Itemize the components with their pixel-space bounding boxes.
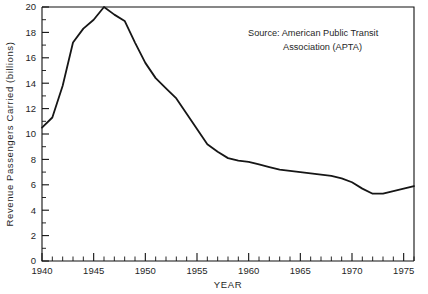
x-tick-label-1955: 1955 <box>186 265 207 276</box>
y-tick-label-6: 6 <box>31 179 36 190</box>
line-chart: 02468101214161820 1940194519501955196019… <box>0 0 428 294</box>
source-note-line-1: Source: American Public Transit <box>248 28 379 38</box>
x-tick-label-1960: 1960 <box>238 265 259 276</box>
x-tick-label-1940: 1940 <box>31 265 52 276</box>
chart-figure: 02468101214161820 1940194519501955196019… <box>0 0 428 294</box>
x-tick-label-1975: 1975 <box>393 265 414 276</box>
y-tick-label-20: 20 <box>25 1 36 12</box>
y-tick-label-18: 18 <box>25 27 36 38</box>
y-axis-tick-labels: 02468101214161820 <box>25 1 36 266</box>
source-note: Source: American Public Transit Associat… <box>248 28 379 52</box>
y-tick-label-4: 4 <box>31 205 36 216</box>
source-note-line-2: Association (APTA) <box>283 42 362 52</box>
x-tick-label-1950: 1950 <box>135 265 156 276</box>
x-axis-tick-labels: 19401945195019551960196519701975 <box>31 265 414 276</box>
y-tick-label-12: 12 <box>25 103 36 114</box>
y-tick-label-14: 14 <box>25 78 36 89</box>
x-tick-label-1970: 1970 <box>341 265 362 276</box>
y-tick-label-10: 10 <box>25 128 36 139</box>
x-tick-label-1965: 1965 <box>290 265 311 276</box>
y-axis-title: Revenue Passengers Carried (billions) <box>4 42 15 227</box>
y-tick-label-2: 2 <box>31 230 36 241</box>
x-tick-label-1945: 1945 <box>83 265 104 276</box>
y-tick-label-16: 16 <box>25 52 36 63</box>
x-axis-ticks <box>42 253 414 261</box>
y-tick-label-8: 8 <box>31 154 36 165</box>
x-axis-title: YEAR <box>214 279 242 290</box>
y-axis-ticks <box>42 7 49 261</box>
